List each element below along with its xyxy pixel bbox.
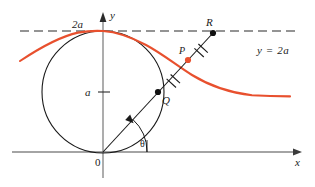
math-figure: 2a a y x 0 θ Q P R y = 2a [0,0,315,187]
segment-pr-tick-marks [194,44,207,57]
label-x-axis: x [294,156,300,168]
label-point-r: R [205,16,213,28]
label-theta: θ [140,138,145,149]
figure-container: 2a a y x 0 θ Q P R y = 2a [0,0,315,187]
label-point-p: P [178,45,185,56]
point-q-marker [155,89,161,95]
segment-qp-tick-marks [167,75,180,88]
red-curve [20,31,290,97]
label-two-a: 2a [72,18,84,30]
point-p-marker [185,57,191,63]
label-origin: 0 [95,156,101,168]
label-y-axis: y [109,9,115,21]
label-a: a [85,86,91,98]
label-point-q: Q [162,94,170,106]
label-line-equation: y = 2a [256,44,289,56]
point-r-marker [210,30,216,36]
x-axis [12,148,302,155]
